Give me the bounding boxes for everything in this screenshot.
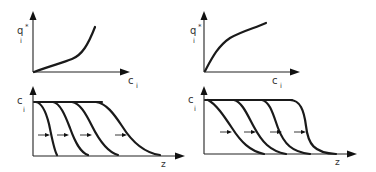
arrow-right-icon (45, 133, 50, 137)
y-axis-label-sub: i (193, 37, 195, 45)
front-curve-1 (36, 102, 57, 155)
x-axis-arrow-icon (347, 151, 357, 158)
left-isotherm-plot: q * i c i (17, 11, 138, 90)
left-profile-plot: c i z (17, 86, 185, 169)
y-axis-arrow-icon (30, 11, 37, 20)
y-axis-arrow-icon (201, 11, 208, 20)
arrow-right-icon (301, 130, 306, 134)
y-axis-label-sup: * (25, 23, 29, 31)
y-axis-arrow-icon (201, 86, 208, 95)
y-axis-label-sup: * (198, 23, 202, 31)
x-axis-label: z (335, 157, 340, 167)
y-axis-label: q (190, 25, 196, 36)
diagram-canvas: q * i c i c i z (0, 0, 376, 172)
y-axis-label: q (17, 25, 23, 36)
x-axis-label: c (128, 75, 134, 86)
y-axis-label: c (17, 95, 23, 106)
y-axis-label-sub: i (23, 106, 25, 114)
y-axis-label-sub: i (194, 105, 196, 113)
arrow-right-icon (227, 130, 232, 134)
y-axis-label-sub: i (20, 37, 22, 45)
front-curve-1 (208, 100, 264, 154)
arrow-right-icon (87, 133, 92, 137)
x-axis-arrow-icon (175, 153, 185, 160)
x-axis-label-sub: i (136, 82, 138, 90)
x-axis-arrow-icon (290, 69, 300, 76)
isotherm-curve-unfavorable (34, 27, 95, 72)
isotherm-curve-favorable (205, 23, 266, 71)
right-profile-plot: c i z (188, 86, 357, 167)
x-axis-label: z (161, 159, 166, 169)
arrow-right-icon (64, 133, 69, 137)
y-axis-label: c (188, 94, 194, 105)
front-curve-4 (290, 100, 336, 154)
right-isotherm-plot: q * i c i (190, 11, 300, 90)
x-axis-label: c (272, 75, 278, 86)
y-axis-arrow-icon (30, 86, 37, 95)
x-axis-label-sub: i (280, 82, 282, 90)
